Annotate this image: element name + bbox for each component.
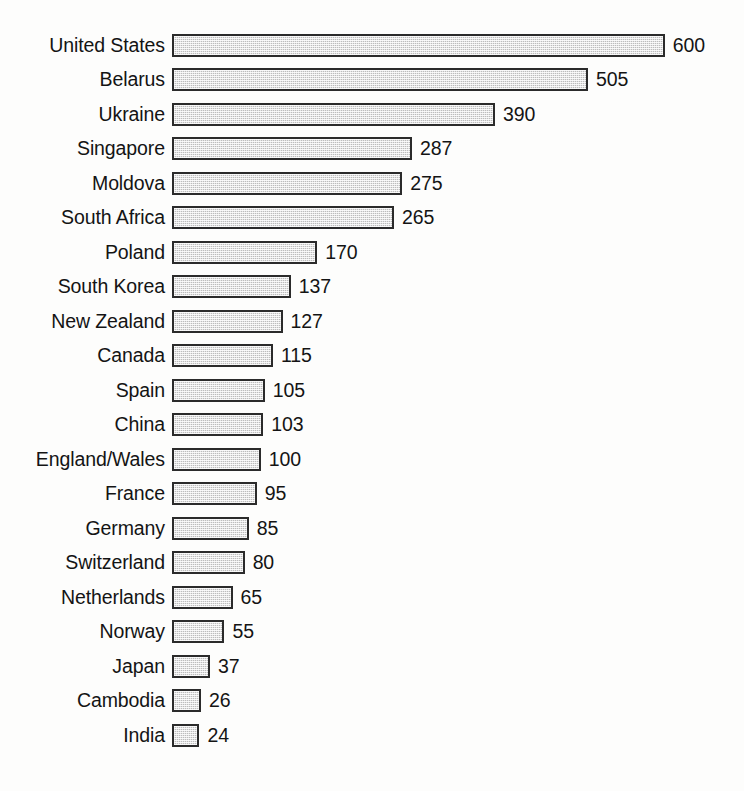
bar-and-value: 26 (172, 689, 744, 712)
bar-row: Ukraine390 (0, 97, 744, 132)
bar (172, 275, 291, 298)
bar-value-label: 105 (265, 381, 305, 401)
bar-category-label: New Zealand (0, 312, 172, 332)
bar (172, 586, 233, 609)
bar-and-value: 85 (172, 517, 744, 540)
bar-value-label: 275 (402, 174, 442, 194)
bar-and-value: 600 (172, 34, 744, 57)
bar-and-value: 55 (172, 620, 744, 643)
bar (172, 551, 245, 574)
bar-category-label: India (0, 726, 172, 746)
bar-and-value: 265 (172, 206, 744, 229)
bar-row: Cambodia26 (0, 684, 744, 719)
bar-row: India24 (0, 718, 744, 753)
bar-row: New Zealand127 (0, 304, 744, 339)
bar-and-value: 170 (172, 241, 744, 264)
bar (172, 34, 665, 57)
bar-value-label: 55 (224, 622, 254, 642)
bar (172, 206, 394, 229)
bar (172, 689, 201, 712)
bar-and-value: 115 (172, 344, 744, 367)
bar-and-value: 105 (172, 379, 744, 402)
bar-and-value: 505 (172, 68, 744, 91)
bar (172, 482, 257, 505)
bar-row: Switzerland80 (0, 546, 744, 581)
bar (172, 448, 261, 471)
bar-row: Moldova275 (0, 166, 744, 201)
bar-and-value: 275 (172, 172, 744, 195)
bar-category-label: Switzerland (0, 553, 172, 573)
bar-value-label: 287 (412, 139, 452, 159)
bar-and-value: 390 (172, 103, 744, 126)
bar-category-label: France (0, 484, 172, 504)
bar-category-label: China (0, 415, 172, 435)
bar-value-label: 80 (245, 553, 275, 573)
bar (172, 517, 249, 540)
bar (172, 724, 199, 747)
bar-and-value: 24 (172, 724, 744, 747)
bar-and-value: 103 (172, 413, 744, 436)
bar-value-label: 24 (199, 726, 229, 746)
bar (172, 241, 317, 264)
bar (172, 379, 265, 402)
bar (172, 103, 495, 126)
bar-category-label: Spain (0, 381, 172, 401)
bar-row: Poland170 (0, 235, 744, 270)
bar-value-label: 85 (249, 519, 279, 539)
bar-and-value: 65 (172, 586, 744, 609)
bar (172, 68, 588, 91)
bar-category-label: Canada (0, 346, 172, 366)
bar-row: Belarus505 (0, 63, 744, 98)
bar-value-label: 170 (317, 243, 357, 263)
bar-value-label: 505 (588, 70, 628, 90)
bar-category-label: Moldova (0, 174, 172, 194)
bar-row: South Africa265 (0, 201, 744, 236)
bar-value-label: 137 (291, 277, 331, 297)
bar-chart: United States600Belarus505Ukraine390Sing… (0, 0, 744, 791)
bar-value-label: 390 (495, 105, 535, 125)
bar-category-label: Ukraine (0, 105, 172, 125)
bar-and-value: 37 (172, 655, 744, 678)
bar-row: Spain105 (0, 373, 744, 408)
bar-value-label: 103 (263, 415, 303, 435)
bar-value-label: 37 (210, 657, 240, 677)
bar-category-label: South Africa (0, 208, 172, 228)
bar-value-label: 127 (283, 312, 323, 332)
bar-row: South Korea137 (0, 270, 744, 305)
bar-category-label: Germany (0, 519, 172, 539)
bar-value-label: 100 (261, 450, 301, 470)
bar-category-label: South Korea (0, 277, 172, 297)
bar-and-value: 95 (172, 482, 744, 505)
bar-category-label: Netherlands (0, 588, 172, 608)
bar-row: Japan37 (0, 649, 744, 684)
bar (172, 413, 263, 436)
bar-and-value: 137 (172, 275, 744, 298)
bar-value-label: 265 (394, 208, 434, 228)
bar-row: France95 (0, 477, 744, 512)
bar-chart-rows: United States600Belarus505Ukraine390Sing… (0, 28, 744, 753)
bar-row: Germany85 (0, 511, 744, 546)
bar-value-label: 26 (201, 691, 231, 711)
bar-category-label: Belarus (0, 70, 172, 90)
bar-value-label: 65 (233, 588, 263, 608)
bar (172, 172, 402, 195)
bar (172, 137, 412, 160)
bar-and-value: 127 (172, 310, 744, 333)
bar-category-label: United States (0, 36, 172, 56)
bar-category-label: England/Wales (0, 450, 172, 470)
bar-row: Netherlands65 (0, 580, 744, 615)
bar-row: Singapore287 (0, 132, 744, 167)
bar-row: Canada115 (0, 339, 744, 374)
bar-category-label: Poland (0, 243, 172, 263)
bar-row: China103 (0, 408, 744, 443)
bar (172, 655, 210, 678)
bar-row: United States600 (0, 28, 744, 63)
bar (172, 310, 283, 333)
bar-category-label: Japan (0, 657, 172, 677)
bar-and-value: 287 (172, 137, 744, 160)
bar-row: Norway55 (0, 615, 744, 650)
bar-category-label: Norway (0, 622, 172, 642)
bar-row: England/Wales100 (0, 442, 744, 477)
bar-value-label: 600 (665, 36, 705, 56)
bar-and-value: 80 (172, 551, 744, 574)
